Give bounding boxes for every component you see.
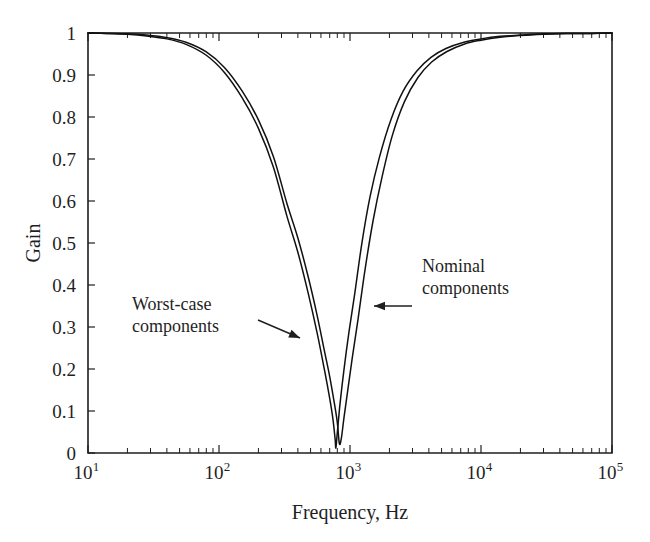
axis-frame-path xyxy=(88,33,612,453)
y-tick-label: 0.4 xyxy=(52,275,76,296)
annotation-label-line2: components xyxy=(422,278,509,298)
data-series-group xyxy=(88,33,612,448)
y-axis-title: Gain xyxy=(22,224,44,263)
annotations-group: Worst-casecomponentsNominalcomponents xyxy=(132,256,509,338)
x-tick-label: 102 xyxy=(205,459,231,483)
y-tick-label: 0.1 xyxy=(52,401,76,422)
y-axis-tick-labels: 00.10.20.30.40.50.60.70.80.91 xyxy=(52,23,76,464)
y-tick-label: 1 xyxy=(67,23,77,44)
y-tick-label: 0.3 xyxy=(52,317,76,338)
annotation-arrowhead-icon xyxy=(288,330,300,338)
x-axis-title: Frequency, Hz xyxy=(292,501,409,524)
annotation-worst-case: Worst-casecomponents xyxy=(132,294,300,338)
x-tick-label-base: 10 xyxy=(205,462,224,483)
x-tick-label-exponent: 2 xyxy=(224,459,231,474)
y-tick-label: 0.6 xyxy=(52,191,76,212)
x-axis-ticks xyxy=(88,33,612,453)
annotation-label-line1: Worst-case xyxy=(132,294,212,314)
axes-frame xyxy=(88,33,612,453)
x-tick-label-exponent: 3 xyxy=(355,459,362,474)
x-tick-label-base: 10 xyxy=(336,462,355,483)
y-tick-label: 0.9 xyxy=(52,65,76,86)
chart-figure: 101102103104105 00.10.20.30.40.50.60.70.… xyxy=(0,0,650,542)
notch-filter-gain-chart: 101102103104105 00.10.20.30.40.50.60.70.… xyxy=(0,0,650,542)
annotation-arrowhead-icon xyxy=(374,302,385,310)
x-tick-label-exponent: 4 xyxy=(486,459,493,474)
x-tick-label-base: 10 xyxy=(74,462,93,483)
annotation-label-line1: Nominal xyxy=(422,256,485,276)
x-tick-label: 103 xyxy=(336,459,362,483)
annotation-nominal: Nominalcomponents xyxy=(374,256,509,310)
y-tick-label: 0.2 xyxy=(52,359,76,380)
series-curve xyxy=(88,33,612,448)
x-tick-label: 101 xyxy=(74,459,100,483)
x-axis-tick-labels: 101102103104105 xyxy=(74,459,624,483)
y-tick-label: 0 xyxy=(67,443,77,464)
x-tick-label-exponent: 5 xyxy=(617,459,624,474)
x-tick-label: 105 xyxy=(598,459,624,483)
y-tick-label: 0.7 xyxy=(52,149,76,170)
series-curve xyxy=(88,33,612,445)
x-tick-label-exponent: 1 xyxy=(93,459,100,474)
y-tick-label: 0.8 xyxy=(52,107,76,128)
y-axis-ticks xyxy=(88,33,95,453)
x-tick-label: 104 xyxy=(467,459,493,483)
annotation-label-line2: components xyxy=(132,316,219,336)
x-tick-label-base: 10 xyxy=(467,462,486,483)
x-tick-label-base: 10 xyxy=(598,462,617,483)
y-tick-label: 0.5 xyxy=(52,233,76,254)
